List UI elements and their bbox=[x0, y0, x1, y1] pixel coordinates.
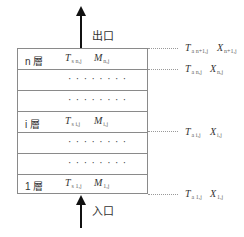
layer-1-m: M1,j bbox=[94, 177, 110, 189]
layer-1-row: 1 層 Ts 1,j M1,j bbox=[18, 174, 147, 195]
layer-1-label: 1 層 bbox=[25, 178, 43, 193]
x-n-plus-1: Xn+1,j bbox=[217, 42, 237, 54]
layer-1-ts: Ts 1,j bbox=[65, 177, 82, 189]
leader-line-i bbox=[148, 131, 178, 132]
ta-n-plus-1: Ta n+1,j bbox=[185, 42, 208, 54]
layer-n-row: n 層 Ts n,j Mn,j bbox=[18, 49, 147, 70]
ta-1: Ta 1,j bbox=[185, 188, 202, 200]
inlet-arrow-shaft bbox=[80, 203, 82, 228]
ta-i: Ta i,j bbox=[185, 126, 201, 138]
inlet-label: 入口 bbox=[92, 202, 114, 218]
layer-i-ts: Ts i,j bbox=[65, 115, 80, 127]
outlet-label: 出口 bbox=[92, 27, 114, 43]
x-n: Xn,j bbox=[210, 63, 223, 75]
layer-stack: n 層 Ts n,j Mn,j ········ ········ i 層 Ts… bbox=[17, 48, 148, 194]
ellipsis-dots: ········ bbox=[68, 94, 131, 105]
layer-i-m: Mi,j bbox=[94, 115, 108, 127]
layer-n-ts: Ts n,j bbox=[65, 52, 82, 64]
ellipsis-row: ········ bbox=[18, 70, 147, 91]
layer-n-label: n 層 bbox=[25, 53, 43, 68]
leader-line-top bbox=[148, 48, 178, 49]
ellipsis-row: ········ bbox=[18, 133, 147, 154]
layer-i-label: i 層 bbox=[25, 116, 40, 131]
leader-line-n bbox=[148, 69, 178, 70]
ellipsis-dots: ········ bbox=[68, 157, 131, 168]
ta-n: Ta n,j bbox=[185, 63, 202, 75]
outlet-arrow-shaft bbox=[80, 14, 82, 48]
layer-n-m: Mn,j bbox=[94, 52, 110, 64]
ellipsis-dots: ········ bbox=[68, 73, 131, 84]
ellipsis-row: ········ bbox=[18, 91, 147, 112]
x-1: X1,j bbox=[210, 188, 223, 200]
ellipsis-row: ········ bbox=[18, 154, 147, 175]
layer-i-row: i 層 Ts i,j Mi,j bbox=[18, 112, 147, 133]
leader-line-bottom bbox=[148, 194, 178, 195]
x-i: Xi,j bbox=[210, 126, 222, 138]
ellipsis-dots: ········ bbox=[68, 136, 131, 147]
